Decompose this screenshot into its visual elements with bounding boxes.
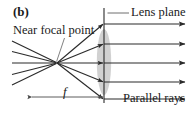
parallel-rays-label: Parallel rays [123, 92, 185, 105]
lens-plane-label: Lens plane [131, 6, 186, 19]
incoming-ray-group [12, 41, 56, 85]
incoming-ray [12, 52, 56, 63]
incoming-ray [12, 63, 56, 85]
near-focal-point-label: Near focal point [13, 24, 94, 37]
incoming-ray [12, 63, 56, 74]
outgoing-parallel-ray-group [104, 24, 185, 99]
panel-label: (b) [13, 5, 29, 18]
ray-diagram-figure: (b) Near focal point Lens plane Parallel… [0, 0, 196, 119]
refracting-ray [57, 63, 103, 82]
refracting-ray [57, 44, 103, 63]
incoming-ray [12, 41, 56, 63]
focal-length-label: f [63, 85, 67, 98]
